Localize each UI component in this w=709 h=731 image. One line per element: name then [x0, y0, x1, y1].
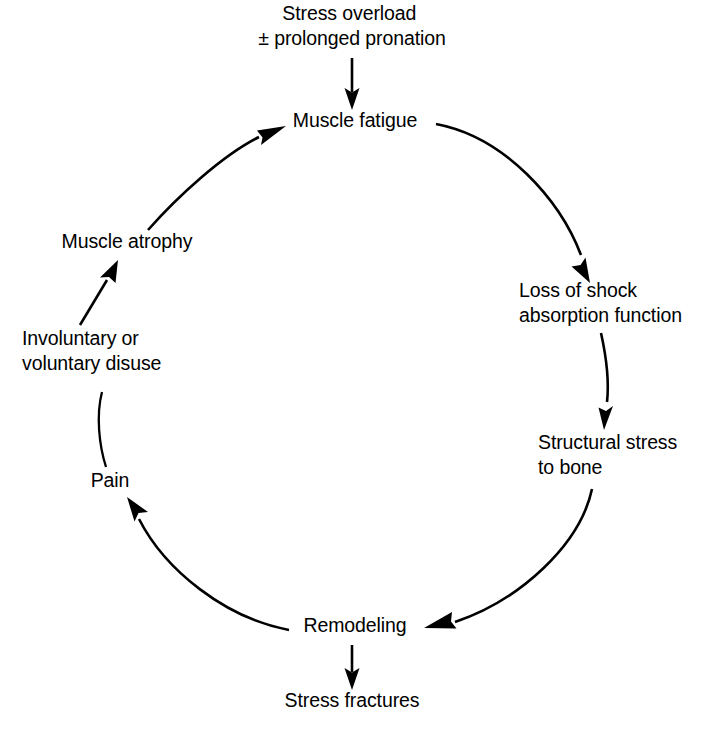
svg-text:Stress overload ± prol: Stress overload ± prolonged pronation	[258, 2, 446, 49]
edge-muscle-fatigue-to-loss-of-shock-absorption	[436, 124, 590, 283]
stress-fracture-cycle-diagram: Stress overload ± prolonged pronation Mu…	[0, 0, 709, 731]
svg-text:Structural stress to b: Structural stress to bone	[538, 431, 683, 478]
edge-remodeling-to-pain	[127, 497, 289, 630]
svg-text:Involuntary or volunta: Involuntary or voluntary disuse	[22, 327, 161, 374]
node-involuntary-or-voluntary-disuse-line-1: Involuntary or	[22, 327, 139, 349]
svg-text:Muscle fatigue: Muscle fatigue	[293, 109, 417, 131]
edge-pain-to-involuntary-disuse	[99, 392, 106, 467]
node-loss-of-shock-absorption: Loss of shock absorption function	[519, 279, 682, 326]
svg-text:Muscle atrophy: Muscle atrophy	[62, 230, 193, 252]
svg-text:Loss of shock absorpti: Loss of shock absorption function	[519, 279, 682, 326]
edge-stress-overload-to-muscle-fatigue	[345, 58, 360, 110]
edge-muscle-atrophy-to-muscle-fatigue	[148, 126, 286, 230]
edge-loss-of-shock-absorption-to-structural-stress	[599, 333, 614, 430]
node-stress-fractures: Stress fractures	[285, 689, 420, 711]
node-muscle-fatigue: Muscle fatigue	[293, 109, 417, 131]
svg-text:Stress fractures: Stress fractures	[285, 689, 420, 711]
node-muscle-atrophy-line-1: Muscle atrophy	[62, 230, 193, 252]
node-remodeling-line-1: Remodeling	[303, 614, 406, 636]
edge-involuntary-disuse-to-muscle-atrophy	[80, 260, 118, 325]
node-structural-stress-to-bone-line-2: to bone	[538, 456, 602, 478]
node-pain-line-1: Pain	[91, 469, 130, 491]
svg-text:Remodeling: Remodeling	[303, 614, 406, 636]
edge-structural-stress-to-remodeling	[424, 489, 592, 629]
node-involuntary-or-voluntary-disuse: Involuntary or voluntary disuse	[22, 327, 161, 374]
node-involuntary-or-voluntary-disuse-line-2: voluntary disuse	[22, 352, 161, 374]
svg-text:Pain: Pain	[91, 469, 130, 491]
node-structural-stress-to-bone: Structural stress to bone	[538, 431, 683, 478]
node-pain: Pain	[91, 469, 130, 491]
cycle-diagram-canvas: Stress overload ± prolonged pronation Mu…	[0, 0, 709, 731]
node-loss-of-shock-absorption-line-1: Loss of shock	[519, 279, 637, 301]
node-loss-of-shock-absorption-line-2: absorption function	[519, 304, 682, 326]
node-stress-overload: Stress overload ± prolonged pronation	[258, 2, 446, 49]
node-muscle-atrophy: Muscle atrophy	[62, 230, 193, 252]
node-remodeling: Remodeling	[303, 614, 406, 636]
node-stress-fractures-line-1: Stress fractures	[285, 689, 420, 711]
edge-remodeling-to-stress-fractures	[345, 645, 360, 690]
node-structural-stress-to-bone-line-1: Structural stress	[538, 431, 678, 453]
node-muscle-fatigue-line-1: Muscle fatigue	[293, 109, 417, 131]
node-stress-overload-line-1: Stress overload	[282, 2, 416, 24]
node-stress-overload-line-2: ± prolonged pronation	[258, 27, 446, 49]
